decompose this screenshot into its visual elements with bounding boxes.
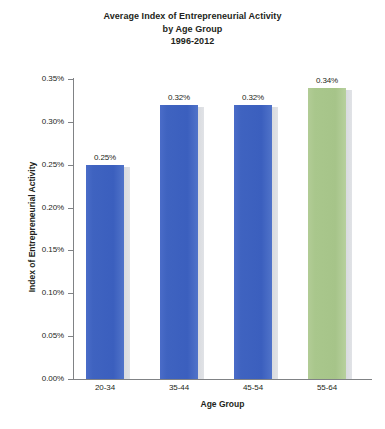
x-axis-title: Age Group <box>73 399 372 409</box>
y-axis-tick-label: 0.25% <box>0 160 64 169</box>
bar[interactable] <box>308 88 346 379</box>
bar[interactable] <box>160 105 198 379</box>
y-axis-tick-label: 0.35% <box>0 74 64 83</box>
bar-value-label: 0.32% <box>144 93 214 102</box>
y-axis-tick-label: 0.10% <box>0 288 64 297</box>
plot-area: 0.25%0.32%0.32%0.34% <box>73 79 369 379</box>
y-axis-tick-label: 0.00% <box>0 374 64 383</box>
bar-group[interactable]: 0.32% <box>160 79 205 379</box>
x-axis-tick-label: 55-64 <box>287 383 367 392</box>
y-axis-tick <box>68 379 73 380</box>
bar-group[interactable]: 0.25% <box>86 79 131 379</box>
y-axis-tick-label: 0.05% <box>0 331 64 340</box>
y-axis-tick-label: 0.20% <box>0 203 64 212</box>
x-axis-tick-label: 20-34 <box>65 383 145 392</box>
x-axis-tick-label: 35-44 <box>139 383 219 392</box>
bar-value-label: 0.34% <box>292 76 362 85</box>
chart-title: Average Index of Entrepreneurial Activit… <box>0 10 385 48</box>
bar-value-label: 0.32% <box>218 93 288 102</box>
x-axis-tick-label: 45-54 <box>213 383 293 392</box>
bar-group[interactable]: 0.32% <box>234 79 279 379</box>
y-axis-tick-label: 0.30% <box>0 117 64 126</box>
y-axis-tick-label: 0.15% <box>0 245 64 254</box>
chart-title-line-2: by Age Group <box>0 23 385 36</box>
bar[interactable] <box>86 165 124 379</box>
x-axis-line <box>73 379 372 380</box>
bar-group[interactable]: 0.34% <box>308 79 353 379</box>
chart-title-line-3: 1996-2012 <box>0 35 385 48</box>
chart-title-line-1: Average Index of Entrepreneurial Activit… <box>0 10 385 23</box>
bar-value-label: 0.25% <box>70 153 140 162</box>
bar[interactable] <box>234 105 272 379</box>
